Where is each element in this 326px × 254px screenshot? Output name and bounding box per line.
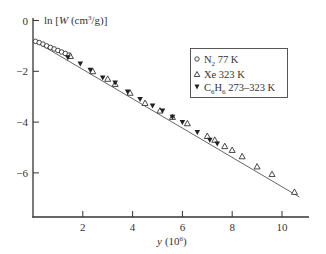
x-tick-label: 6 <box>180 221 186 233</box>
legend-label-xe: Xe 323 K <box>204 69 245 80</box>
point-triangle-icon <box>212 137 218 142</box>
y-tick-label: −6 <box>16 167 28 179</box>
point-inverted-triangle-icon <box>137 97 143 102</box>
x-tick-label: 10 <box>277 221 289 233</box>
y-tick-label: 0 <box>23 15 29 27</box>
point-triangle-icon <box>229 147 235 152</box>
x-tick-label: 2 <box>80 221 86 233</box>
point-triangle-icon <box>105 76 111 81</box>
x-ticks: 246810 <box>80 211 288 233</box>
y-tick-label: −2 <box>16 65 28 77</box>
point-inverted-triangle-icon <box>214 141 220 146</box>
x-tick-label: 8 <box>229 221 235 233</box>
x-tick-label: 4 <box>130 221 136 233</box>
point-inverted-triangle-icon <box>195 130 201 135</box>
legend: N2 77 K Xe 323 K C6H6 273–323 K <box>191 49 288 98</box>
point-triangle-icon <box>291 189 297 194</box>
y-tick-label: −4 <box>16 116 28 128</box>
y-axis-label: ln [W (cm3/g)] <box>44 14 107 27</box>
point-inverted-triangle-icon <box>150 103 156 108</box>
point-triangle-icon <box>204 133 210 138</box>
point-triangle-icon <box>222 143 228 148</box>
point-triangle-icon <box>184 120 190 125</box>
legend-marker-circle-icon <box>195 57 199 61</box>
chart: 0−2−4−6 246810 ln [W (cm3/g)] y(106) N2 … <box>0 0 326 254</box>
point-inverted-triangle-icon <box>78 61 84 66</box>
point-triangle-icon <box>142 100 148 105</box>
point-inverted-triangle-icon <box>180 120 186 125</box>
point-triangle-icon <box>239 153 245 158</box>
point-triangle-icon <box>254 164 260 169</box>
x-axis-label: y(106) <box>156 235 187 248</box>
point-triangle-icon <box>269 171 275 176</box>
